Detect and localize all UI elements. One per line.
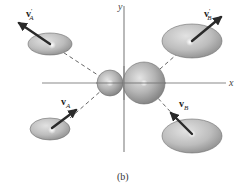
body-A (30, 118, 70, 140)
label-vB: vB (179, 98, 189, 112)
label-vB-prime: v'B (204, 7, 212, 22)
label-vA-prime: v'A (26, 7, 34, 22)
y-axis-label: y (117, 1, 123, 12)
x-axis-label: x (228, 77, 234, 88)
collision-diagram: y x v'A (0, 0, 248, 184)
figure-caption: (b) (117, 171, 129, 183)
label-vA: vA (61, 96, 71, 110)
body-B (162, 119, 222, 153)
